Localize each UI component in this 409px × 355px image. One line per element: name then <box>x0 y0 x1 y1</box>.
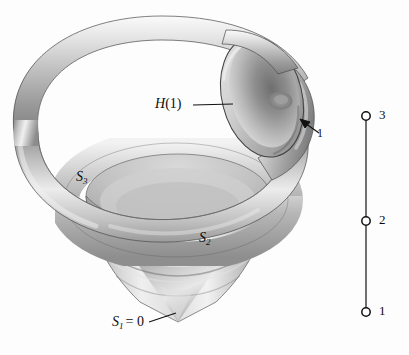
s3-label-base: S <box>76 169 83 184</box>
handle-label-arg: (1) <box>165 96 181 111</box>
torus-level-set-illustration <box>0 0 409 355</box>
s1-label-sub: 1 <box>119 321 123 331</box>
s3-label: S3 <box>76 170 87 186</box>
index-one-label: 1 <box>317 127 323 139</box>
outer-torus-left-limb <box>14 120 38 146</box>
axis-node-3-label: 3 <box>379 108 386 121</box>
axis-node-2-label: 2 <box>379 213 386 226</box>
figure-root: H(1) 1 S3 S2 S1= 0 3 2 1 <box>0 0 409 355</box>
handle-label-letter: H <box>155 96 165 111</box>
s2-label: S2 <box>199 231 210 247</box>
s2-label-sub: 2 <box>206 237 210 247</box>
s1-label: S1= 0 <box>112 315 144 331</box>
axis-node-1 <box>362 308 370 316</box>
level-axis-diagram <box>362 112 370 316</box>
s2-label-base: S <box>199 230 206 245</box>
axis-node-3 <box>362 112 370 120</box>
axis-node-2 <box>362 217 370 225</box>
s1-label-equals: = 0 <box>125 314 143 329</box>
s1-label-base: S <box>112 314 119 329</box>
handle-label: H(1) <box>155 97 181 111</box>
s3-label-sub: 3 <box>83 176 87 186</box>
axis-node-1-label: 1 <box>379 304 386 317</box>
